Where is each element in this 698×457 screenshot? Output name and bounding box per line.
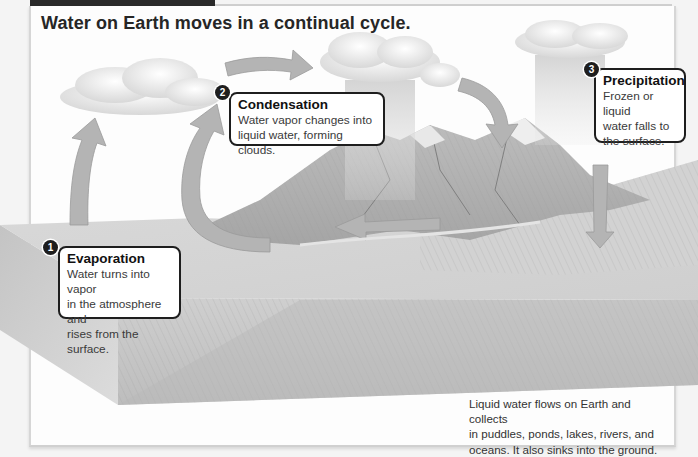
step-badge-1: 1 — [43, 240, 58, 255]
callout-line: Water vapor changes into — [238, 113, 377, 128]
callout-line: liquid water, forming clouds. — [238, 128, 377, 158]
callout-title: Evaporation — [67, 251, 173, 267]
callout-line: Water turns into vapor — [67, 267, 173, 297]
callout-line: Frozen or liquid — [603, 89, 678, 119]
callout-body: Frozen or liquid water falls to the surf… — [603, 89, 678, 149]
callout-line: in the atmosphere and — [67, 297, 173, 327]
callout-evaporation: Evaporation Water turns into vapor in th… — [58, 246, 181, 319]
callout-body: Water vapor changes into liquid water, f… — [238, 113, 377, 158]
callout-title: Precipitation — [603, 73, 678, 89]
step-badge-3: 3 — [584, 62, 599, 77]
step-badge-2: 2 — [215, 85, 230, 100]
caption-line: oceans. It also sinks into the ground. — [469, 442, 669, 457]
callout-line: rises from the surface. — [67, 327, 173, 357]
cloud-transfer-arrow — [225, 50, 313, 80]
callout-line: water falls to — [603, 119, 678, 134]
callout-body: Water turns into vapor in the atmosphere… — [67, 267, 173, 357]
caption-line: Liquid water flows on Earth and collects — [469, 396, 669, 426]
surface-water-caption: Liquid water flows on Earth and collects… — [469, 396, 669, 457]
cloud-left — [60, 58, 225, 115]
evaporation-arrow-left — [70, 118, 106, 225]
callout-title: Condensation — [238, 97, 377, 113]
callout-condensation: Condensation Water vapor changes into li… — [229, 92, 385, 146]
callout-precipitation: Precipitation Frozen or liquid water fal… — [594, 68, 686, 143]
callout-line: the surface. — [603, 134, 678, 149]
caption-line: in puddles, ponds, lakes, rivers, and — [469, 426, 669, 441]
